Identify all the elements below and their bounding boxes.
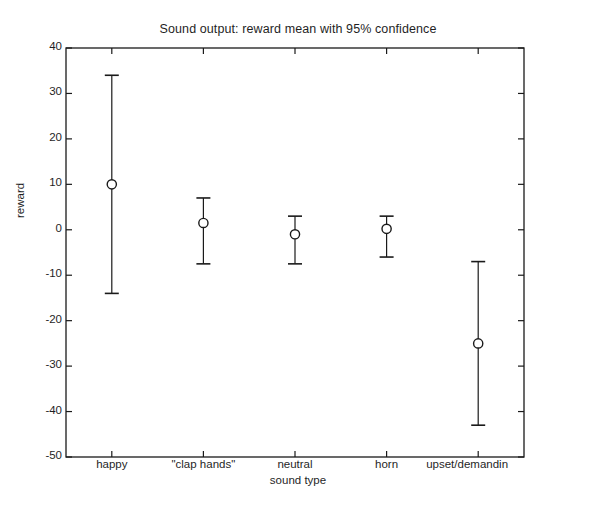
data-point <box>380 216 394 257</box>
figure-container: Sound output: reward mean with 95% confi… <box>0 0 596 516</box>
y-tick-label: -20 <box>24 313 62 325</box>
y-tick-label: -10 <box>24 267 62 279</box>
data-point <box>196 198 210 264</box>
y-tick-label: -30 <box>24 358 62 370</box>
x-tick-label: upset/demandin <box>426 458 596 470</box>
y-tick-label: 40 <box>24 40 62 52</box>
y-tick-label: -40 <box>24 404 62 416</box>
y-tick-label: 0 <box>24 222 62 234</box>
y-tick-label: 20 <box>24 131 62 143</box>
data-point <box>288 216 302 264</box>
plot-area <box>0 0 596 516</box>
data-points-group <box>105 75 485 425</box>
y-tick-label: 10 <box>24 176 62 188</box>
y-tick-label: 30 <box>24 85 62 97</box>
data-point <box>105 75 119 293</box>
data-point <box>471 262 485 426</box>
